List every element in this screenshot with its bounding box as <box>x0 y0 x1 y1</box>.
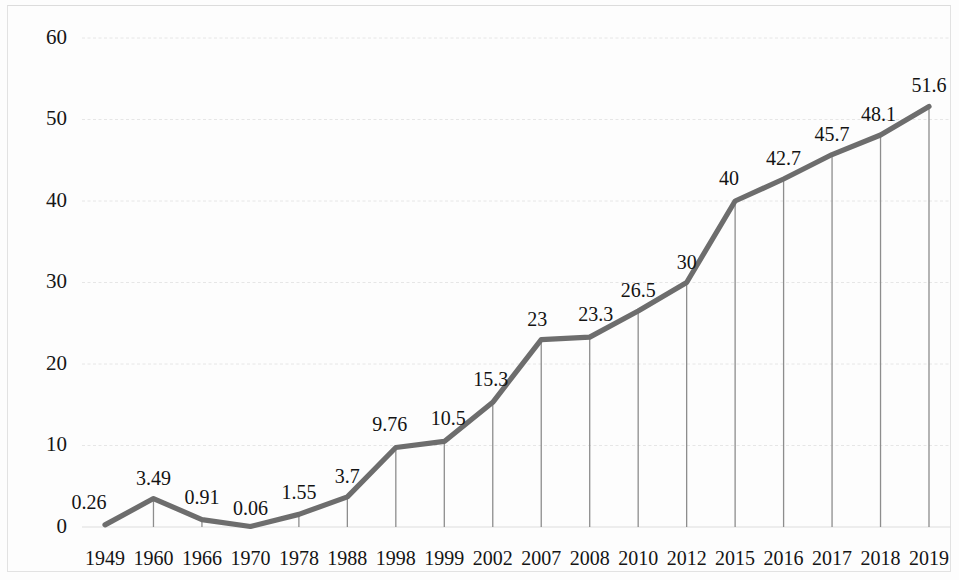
y-axis-tick-label: 50 <box>46 106 67 130</box>
y-axis-tick-label: 60 <box>46 25 67 49</box>
data-point-value-label: 23 <box>527 308 547 330</box>
y-axis-tick-label: 30 <box>46 269 67 293</box>
data-point-value-label: 1.55 <box>281 481 316 503</box>
data-point-value-label: 9.76 <box>372 413 407 435</box>
x-axis-tick-labels: 1949196019661970197819881998199920022007… <box>85 547 949 569</box>
data-point-value-label: 3.49 <box>136 467 171 489</box>
x-axis-tick-label: 1949 <box>85 547 125 569</box>
data-point-value-label: 0.91 <box>184 486 219 508</box>
x-axis-tick-label: 2012 <box>667 547 707 569</box>
data-point-value-label: 26.5 <box>621 279 656 301</box>
x-axis-tick-label: 2015 <box>715 547 755 569</box>
data-point-value-label: 3.7 <box>335 465 360 487</box>
y-axis-tick-label: 40 <box>46 188 67 212</box>
x-axis-tick-label: 2016 <box>764 547 804 569</box>
x-axis-tick-label: 2019 <box>909 547 949 569</box>
data-point-value-label: 45.7 <box>815 123 850 145</box>
x-axis-tick-label: 1998 <box>376 547 416 569</box>
y-axis-tick-label: 10 <box>46 432 67 456</box>
x-axis-tick-label: 1970 <box>230 547 270 569</box>
data-point-value-label: 0.26 <box>72 491 107 513</box>
data-point-labels: 0.263.490.910.061.553.79.7610.515.32323.… <box>72 74 947 518</box>
y-axis-tick-label: 20 <box>46 351 67 375</box>
data-point-value-label: 10.5 <box>431 407 466 429</box>
line-chart: 0102030405060 19491960196619701978198819… <box>0 0 959 580</box>
data-point-value-label: 0.06 <box>233 497 268 519</box>
x-axis-tick-label: 1999 <box>424 547 464 569</box>
data-point-value-label: 23.3 <box>578 303 613 325</box>
x-axis-tick-label: 2008 <box>570 547 610 569</box>
gridlines-group <box>82 38 951 527</box>
x-axis-tick-label: 1978 <box>279 547 319 569</box>
x-axis-tick-label: 2002 <box>473 547 513 569</box>
x-axis-tick-label: 1966 <box>182 547 222 569</box>
x-axis-tick-label: 2010 <box>618 547 658 569</box>
x-axis-tick-label: 2007 <box>521 547 561 569</box>
data-line-group <box>105 106 929 526</box>
data-point-value-label: 42.7 <box>766 147 801 169</box>
y-axis-tick-labels: 0102030405060 <box>46 25 67 538</box>
x-axis-tick-label: 2017 <box>812 547 852 569</box>
data-point-value-label: 15.3 <box>473 368 508 390</box>
x-axis-tick-label: 1960 <box>133 547 173 569</box>
data-point-value-label: 51.6 <box>912 74 947 96</box>
y-axis-tick-label: 0 <box>57 514 68 538</box>
data-point-value-label: 30 <box>677 251 697 273</box>
x-axis-tick-label: 2018 <box>861 547 901 569</box>
x-axis-tick-label: 1988 <box>327 547 367 569</box>
data-point-value-label: 48.1 <box>861 103 896 125</box>
data-point-value-label: 40 <box>719 167 739 189</box>
chart-page: 0102030405060 19491960196619701978198819… <box>0 0 959 580</box>
data-line-series-1 <box>105 106 929 526</box>
